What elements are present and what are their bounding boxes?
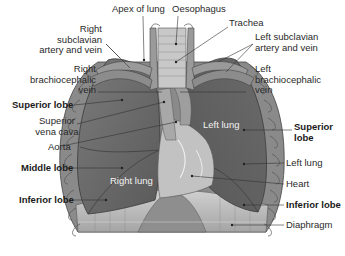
leader-apex	[143, 16, 144, 60]
label-apex-of-lung: Apex of lung	[112, 4, 165, 15]
label-left-brachiocephalic: Left brachiocephalic vein	[255, 64, 321, 96]
label-left-lung: Left lung	[286, 158, 322, 169]
leader-l-subclavian-a	[218, 44, 253, 62]
label-superior-vena-cava: Superior vena cava	[34, 116, 80, 137]
label-superior-lobe-right: Superior lobe	[12, 100, 73, 111]
label-superior-lobe-left: Superior lobe	[294, 122, 333, 143]
label-trachea: Trachea	[229, 18, 264, 29]
label-oesophagus: Oesophagus	[172, 4, 226, 15]
label-inferior-lobe-right: Inferior lobe	[19, 195, 74, 206]
inner-label-left-lung: Left lung	[203, 119, 239, 130]
label-aorta: Aorta	[48, 142, 71, 153]
label-right-subclavian: Right subclavian artery and vein	[34, 24, 102, 56]
inner-label-right-lung: Right lung	[110, 175, 153, 186]
label-heart: Heart	[286, 179, 309, 190]
label-left-subclavian: Left subclavian artery and vein	[255, 32, 318, 53]
label-diaphragm: Diaphragm	[286, 220, 332, 231]
label-inferior-lobe-left: Inferior lobe	[286, 200, 341, 211]
label-right-brachiocephalic: Right brachiocephalic vein	[20, 64, 96, 96]
label-middle-lobe: Middle lobe	[21, 163, 73, 174]
